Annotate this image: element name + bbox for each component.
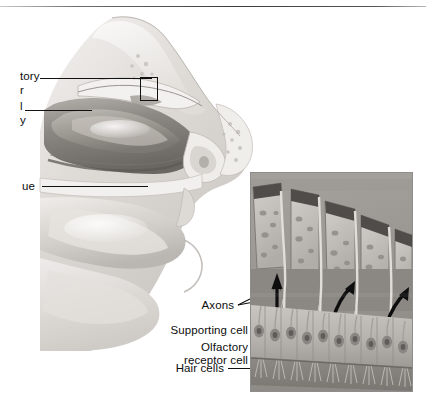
label-olfactory-receptor-cell-line1: Olfactory — [126, 341, 248, 354]
label-olfactory-line2: r — [20, 84, 24, 97]
label-axons: Axons — [136, 299, 234, 312]
label-hair-cells: Hair cells — [126, 362, 224, 375]
label-olfactory-line1: tory — [20, 70, 40, 83]
olfaction-figure: tory r l y ue Axons Supporting cell Olfa… — [0, 0, 426, 412]
label-tongue: ue — [22, 180, 35, 193]
label-supporting-cell: Supporting cell — [126, 324, 248, 337]
label-nasal-cavity-line1: l — [20, 100, 23, 113]
olfactory-epithelium-inset — [250, 172, 413, 392]
label-nasal-cavity-line2: y — [20, 114, 26, 127]
